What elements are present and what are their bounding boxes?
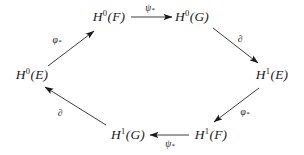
arrow-label-h1g-to-h0e: ∂ — [58, 109, 63, 119]
node-h1e-base: H — [256, 67, 266, 82]
node-h1e-argument: (E) — [270, 67, 288, 82]
arrow-h1g-to-h0e — [45, 87, 106, 125]
arrow-label-h1e-to-h1f-symbol: φ — [241, 107, 246, 117]
node-h0f-argument: (F) — [107, 9, 125, 24]
node-h1g: H1(G) — [111, 128, 145, 142]
arrow-h0g-to-h1e — [213, 28, 258, 63]
node-h1f-argument: (F) — [209, 127, 227, 142]
node-h0f-base: H — [93, 9, 103, 24]
node-h0g: H0(G) — [175, 10, 209, 24]
arrow-label-h1e-to-h1f: φ* — [241, 108, 250, 118]
node-h0e: H0(E) — [16, 68, 49, 82]
node-h0e-argument: (E) — [30, 67, 48, 82]
arrow-label-h0e-to-h0f: φ* — [53, 36, 62, 46]
arrow-h1e-to-h1f — [214, 88, 259, 122]
node-h0e-base: H — [16, 67, 26, 82]
node-h0g-argument: (G) — [190, 9, 209, 24]
arrow-label-h0f-to-h0g: ψ* — [145, 4, 154, 14]
node-h1f: H1(F) — [195, 128, 228, 142]
node-h1g-base: H — [111, 127, 121, 142]
node-h0f: H0(F) — [93, 10, 126, 24]
node-h0g-base: H — [175, 9, 185, 24]
arrow-label-h0g-to-h1e: ∂ — [238, 35, 243, 45]
arrow-label-h1f-to-h1g-subscript: * — [172, 142, 176, 150]
node-h1e: H1(E) — [256, 68, 289, 82]
arrow-label-h0g-to-h1e-symbol: ∂ — [238, 34, 243, 44]
arrow-label-h1g-to-h0e-symbol: ∂ — [58, 108, 63, 118]
arrow-label-h1e-to-h1f-subscript: * — [246, 110, 250, 118]
commutative-diagram: H0(F) H0(G) H1(E) H1(F) H1(G) H0(E) φ* ψ… — [0, 0, 304, 155]
arrow-label-h0f-to-h0g-subscript: * — [152, 6, 156, 14]
arrow-label-h0e-to-h0f-subscript: * — [58, 38, 62, 46]
arrow-label-h0e-to-h0f-symbol: φ — [53, 35, 58, 45]
node-h1f-base: H — [195, 127, 205, 142]
arrow-label-h1f-to-h1g: ψ* — [165, 140, 174, 150]
node-h1g-argument: (G) — [126, 127, 145, 142]
